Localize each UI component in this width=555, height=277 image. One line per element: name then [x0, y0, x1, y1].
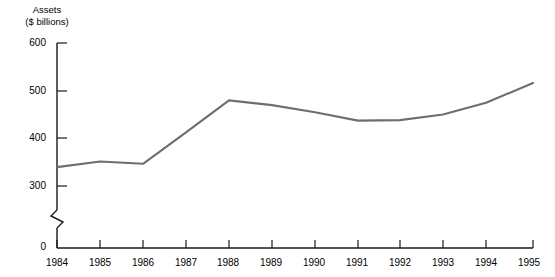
plot-area	[0, 0, 555, 277]
x-axis-group	[57, 240, 533, 248]
assets-line-series	[57, 83, 533, 167]
y-axis-break-zigzag	[51, 210, 63, 228]
chart-container: Assets ($ billions) 600 500 400 300 0 19…	[0, 0, 555, 277]
y-axis-group	[51, 43, 67, 248]
